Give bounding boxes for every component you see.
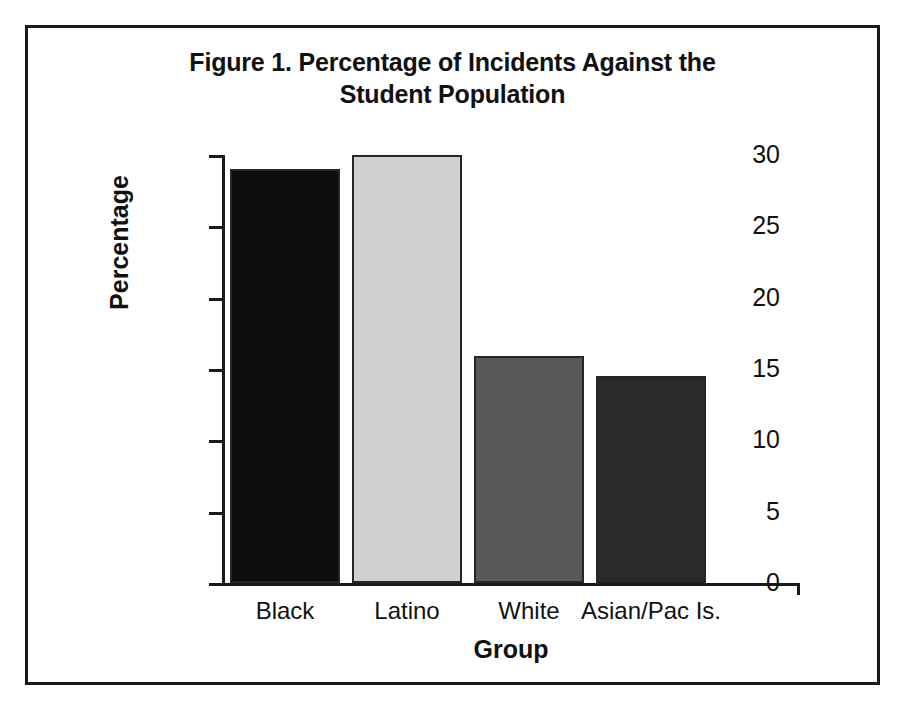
x-axis-label-asian-pac-is: Asian/Pac Is.: [541, 599, 761, 623]
y-axis-tick-label: 10: [720, 427, 780, 452]
y-axis-line: [222, 155, 225, 586]
y-axis-tick-label: 20: [720, 285, 780, 310]
y-axis-tick: [209, 226, 222, 229]
y-axis-tick: [209, 512, 222, 515]
plot-area: 051015202530 BlackLatinoWhiteAsian/Pac I…: [222, 155, 800, 583]
x-axis-title: Group: [222, 635, 800, 664]
x-axis-line: [222, 583, 800, 586]
y-axis-tick-label: 25: [720, 213, 780, 238]
bar-asian-pac-is: [596, 376, 706, 583]
y-axis-title: Percentage: [105, 93, 134, 393]
y-axis-tick-label: 30: [720, 142, 780, 167]
y-axis-tick-label: 15: [720, 356, 780, 381]
chart-title: Figure 1. Percentage of Incidents Agains…: [28, 46, 877, 110]
y-axis-tick: [209, 440, 222, 443]
y-axis-tick: [209, 298, 222, 301]
bar-white: [474, 356, 584, 583]
y-axis-tick-label: 5: [720, 499, 780, 524]
chart-title-line-1: Figure 1. Percentage of Incidents Agains…: [28, 46, 877, 78]
y-axis-tick: [209, 583, 222, 586]
y-axis-tick-label: 0: [720, 570, 780, 595]
bar-latino: [352, 155, 462, 583]
x-axis-end-cap: [797, 583, 800, 595]
chart-title-line-2: Student Population: [28, 78, 877, 110]
y-axis-tick: [209, 369, 222, 372]
y-axis-tick: [209, 155, 222, 158]
bar-black: [230, 169, 340, 583]
figure-frame: Figure 1. Percentage of Incidents Agains…: [25, 25, 880, 685]
